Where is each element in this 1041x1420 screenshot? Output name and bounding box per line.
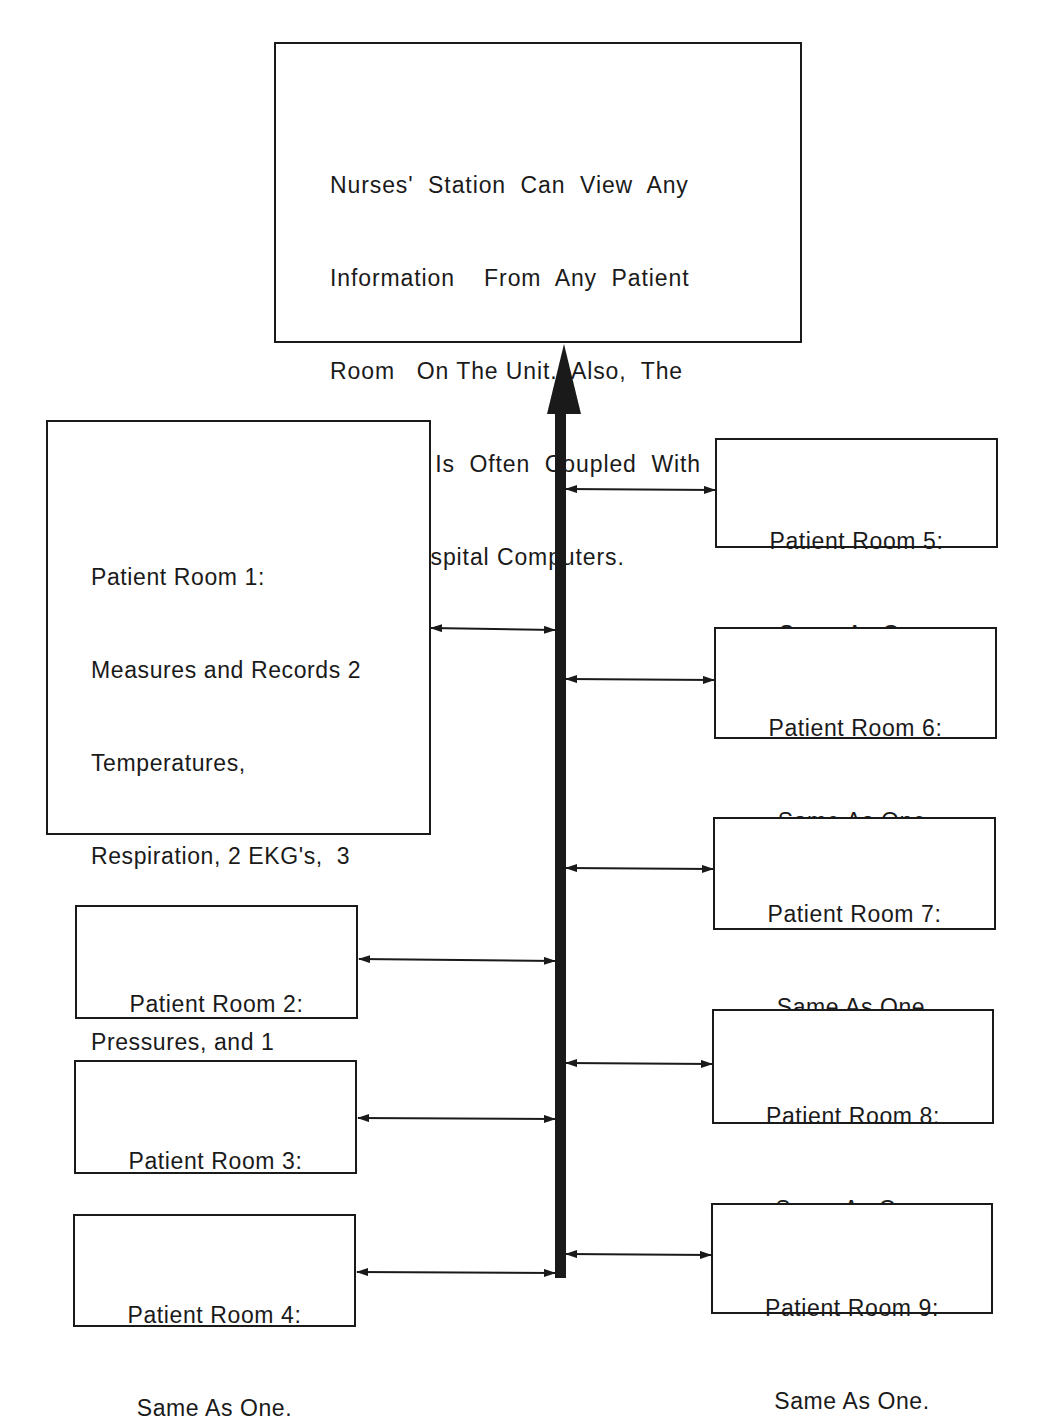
patient-room-4-box: Patient Room 4: Same As One. xyxy=(73,1214,356,1327)
text-line: Information From Any Patient xyxy=(330,263,701,294)
patient-room-5-box: Patient Room 5: Same As One. xyxy=(715,438,998,548)
room-title: Patient Room 4: xyxy=(75,1300,354,1331)
room-description: Same As One. xyxy=(713,1386,991,1417)
text-line: Measures and Records 2 xyxy=(91,655,361,686)
patient-room-9-box: Patient Room 9: Same As One. xyxy=(711,1203,993,1314)
link-room-7 xyxy=(566,868,713,869)
room-title: Patient Room 1: xyxy=(91,562,361,593)
patient-room-8-box: Patient Room 8: Same As One. xyxy=(712,1009,994,1124)
room-title: Patient Room 6: xyxy=(716,713,995,744)
link-room-9 xyxy=(566,1254,711,1255)
text-line: Nurses' Station Can View Any xyxy=(330,170,701,201)
room-description: Same As One. xyxy=(75,1393,354,1420)
patient-room-2-box: Patient Room 2: Same As One. xyxy=(75,905,358,1019)
room-title: Patient Room 5: xyxy=(717,526,996,557)
text-line: Respiration, 2 EKG's, 3 xyxy=(91,841,361,872)
link-room-8 xyxy=(566,1063,712,1064)
patient-room-3-box: Patient Room 3: Same As One. xyxy=(74,1060,357,1174)
room-title: Patient Room 2: xyxy=(77,989,356,1020)
room-title: Patient Room 9: xyxy=(713,1293,991,1324)
patient-room-1-box: Patient Room 1: Measures and Records 2 T… xyxy=(46,420,431,835)
patient-room-7-box: Patient Room 7: Same As One. xyxy=(713,817,996,930)
patient-room-9-text: Patient Room 9: Same As One. xyxy=(713,1231,991,1420)
text-line: Room On The Unit. Also, The xyxy=(330,356,701,387)
link-room-3 xyxy=(358,1118,555,1119)
room-title: Patient Room 7: xyxy=(715,899,994,930)
link-room-2 xyxy=(359,959,555,961)
link-room-4 xyxy=(357,1272,555,1273)
room-title: Patient Room 3: xyxy=(76,1146,355,1177)
link-room-6 xyxy=(566,679,714,680)
text-line: Temperatures, xyxy=(91,748,361,779)
patient-room-6-box: Patient Room 6: Same As One. xyxy=(714,627,997,739)
room-title: Patient Room 8: xyxy=(714,1101,992,1132)
patient-room-4-text: Patient Room 4: Same As One. xyxy=(75,1238,354,1420)
nurses-station-box: Nurses' Station Can View Any Information… xyxy=(274,42,802,343)
